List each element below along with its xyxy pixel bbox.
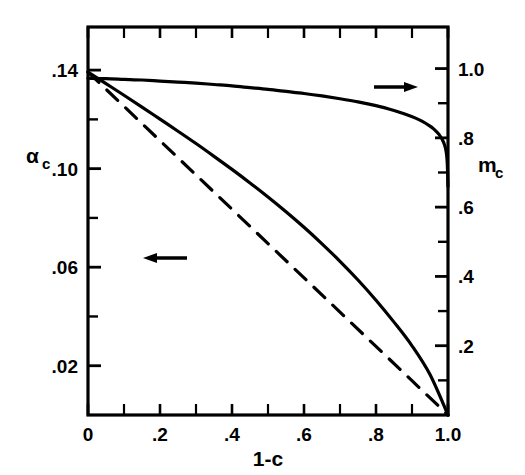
y-right-tick-label: .4 bbox=[458, 266, 474, 287]
x-tick-label: .4 bbox=[224, 424, 240, 445]
x-axis-title-text: 1-c bbox=[253, 447, 284, 470]
y-axis-left-title-base: α bbox=[26, 144, 39, 167]
y-left-tick-label: .14 bbox=[52, 60, 79, 81]
y-left-tick-label: .10 bbox=[52, 159, 78, 180]
x-axis-title: 1-c bbox=[253, 447, 284, 470]
y-right-tick-label: 1.0 bbox=[458, 59, 484, 80]
y-axis-right-title-sub: c bbox=[495, 164, 503, 181]
x-tick-label: 0 bbox=[83, 424, 94, 445]
y-right-tick-label: .2 bbox=[458, 336, 474, 357]
plot-svg: 0.2.4.6.81.0 .14.10.06.02 1.0.8.6.4.2 1-… bbox=[0, 0, 525, 475]
y-left-tick-label: .06 bbox=[52, 257, 78, 278]
x-tick-label: .8 bbox=[368, 424, 384, 445]
y-axis-left-title-sub: c bbox=[42, 155, 50, 172]
y-right-tick-label: .6 bbox=[458, 197, 474, 218]
y-axis-right-title-base: m bbox=[478, 153, 497, 176]
x-tick-label: .6 bbox=[296, 424, 312, 445]
figure-container: 0.2.4.6.81.0 .14.10.06.02 1.0.8.6.4.2 1-… bbox=[0, 0, 525, 475]
y-left-tick-label: .02 bbox=[52, 356, 78, 377]
x-tick-label: 1.0 bbox=[435, 424, 461, 445]
y-right-tick-label: .8 bbox=[458, 128, 474, 149]
x-tick-label: .2 bbox=[152, 424, 168, 445]
